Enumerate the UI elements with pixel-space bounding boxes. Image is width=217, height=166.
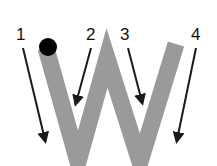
step-label-1: 1 [16, 26, 25, 43]
start-dot [39, 38, 57, 56]
step-label-4: 4 [191, 26, 200, 43]
step-label-2: 2 [86, 26, 95, 43]
arrow-4 [177, 48, 196, 140]
letter-w-shape [46, 44, 176, 162]
letter-w-diagram [0, 0, 217, 166]
step-label-3: 3 [120, 26, 129, 43]
arrow-3 [128, 48, 142, 102]
